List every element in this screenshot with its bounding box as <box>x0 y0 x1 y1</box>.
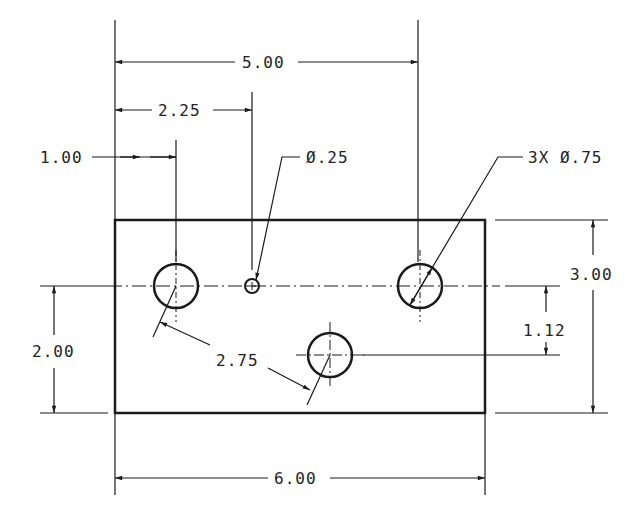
dim-2-00: 2.00 <box>32 342 75 361</box>
dim-1-00: 1.00 <box>40 148 83 167</box>
dim-3-00: 3.00 <box>570 265 613 284</box>
dim-5-00: 5.00 <box>242 53 285 72</box>
dim-2-25: 2.25 <box>158 101 201 120</box>
dim-2-75: 2.75 <box>216 351 259 370</box>
part-outline <box>115 220 485 413</box>
drawing-canvas: 5.00 2.25 1.00 Ø.25 3X Ø.75 3.00 1.12 2.… <box>0 0 642 521</box>
callout-small-hole: Ø.25 <box>306 148 349 167</box>
dim-1-12: 1.12 <box>523 321 566 340</box>
dim-6-00: 6.00 <box>274 469 317 488</box>
callout-large-holes: 3X Ø.75 <box>528 148 602 167</box>
